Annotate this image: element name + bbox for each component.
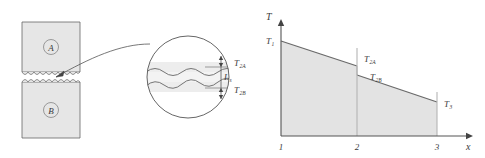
gap-thickness-sub: s — [230, 77, 232, 83]
x-tick-label-3: 3 — [434, 142, 440, 152]
surface-a-temp-sub: 2A — [240, 63, 247, 69]
x-axis-arrowhead — [466, 133, 473, 139]
thermal-contact-resistance-figure: A B — [0, 0, 485, 158]
x-tick-label-2: 2 — [355, 142, 360, 152]
y-axis-label: T — [266, 11, 273, 22]
block-b-rough-surface — [22, 80, 80, 83]
label-T3-subscript: 3 — [449, 104, 453, 110]
solid-block-a: A — [22, 22, 80, 75]
label-T2A: T 2A — [364, 54, 376, 65]
surface-b-temp-sub: 2B — [240, 90, 247, 96]
block-a-label: A — [47, 43, 54, 53]
profile-fill-area — [281, 41, 437, 136]
y-axis-arrowhead — [278, 19, 284, 26]
block-a-rough-surface — [22, 72, 80, 75]
label-T2A-subscript: 2A — [370, 59, 377, 65]
dim-arrowhead-t2a-top — [219, 56, 223, 60]
label-T2B-subscript: 2B — [376, 77, 383, 83]
label-T2B: T 2B — [370, 72, 382, 83]
magnifier-contents — [145, 62, 236, 92]
left-diagram: A B — [22, 22, 150, 138]
gap-thickness-label: L — [223, 72, 229, 82]
label-T1-subscript: 1 — [272, 41, 275, 47]
solid-block-b: B — [22, 80, 80, 139]
label-T1: T 1 — [266, 36, 275, 47]
label-T3: T 3 — [444, 99, 453, 110]
x-tick-label-1: 1 — [279, 142, 284, 152]
block-b-label: B — [48, 106, 54, 116]
temperature-profile-chart: T x 1 2 3 T 1 T 2A T 2B T — [266, 11, 473, 152]
figure-svg: A B — [0, 0, 485, 158]
magnified-interface-view — [145, 36, 236, 118]
x-axis-label: x — [465, 141, 471, 152]
